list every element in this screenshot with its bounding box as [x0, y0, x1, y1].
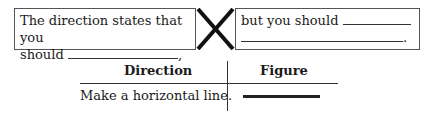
- table-header-figure: Figure: [260, 63, 308, 78]
- x-mark-icon: [196, 8, 235, 50]
- but-you-should-label: but you should: [241, 13, 338, 28]
- table-column-divider: [227, 61, 228, 111]
- comma: ,: [178, 47, 182, 62]
- direction-statement-box: The direction states that you should ,: [14, 8, 196, 50]
- answer-blank[interactable]: [343, 12, 411, 25]
- answer-blank[interactable]: [68, 46, 178, 59]
- correction-statement-line1: but you should: [241, 12, 414, 29]
- table-cell-direction: Make a horizontal line.: [80, 88, 232, 103]
- direction-statement-line2: should ,: [20, 46, 190, 63]
- should-label: should: [20, 47, 64, 62]
- period: .: [403, 30, 407, 45]
- correction-statement-line2: .: [241, 29, 414, 46]
- table-header-direction: Direction: [124, 63, 192, 78]
- table-header-divider: [80, 83, 338, 84]
- correction-statement-box: but you should .: [235, 8, 420, 50]
- horizontal-line-figure: [243, 95, 320, 98]
- answer-blank[interactable]: [241, 29, 403, 42]
- direction-statement-line1: The direction states that you: [20, 12, 190, 46]
